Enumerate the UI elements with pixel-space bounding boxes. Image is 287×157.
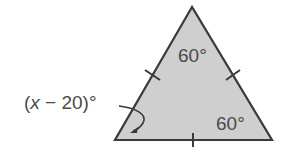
angle-label-bottom-right: 60° xyxy=(216,113,245,134)
expression-rest: − 20)° xyxy=(40,92,97,113)
triangle-diagram: 60° 60° (x − 20)° xyxy=(0,0,287,157)
angle-label-top: 60° xyxy=(178,45,207,66)
angle-label-bottom-left: (x − 20)° xyxy=(24,92,97,113)
triangle xyxy=(115,7,272,140)
